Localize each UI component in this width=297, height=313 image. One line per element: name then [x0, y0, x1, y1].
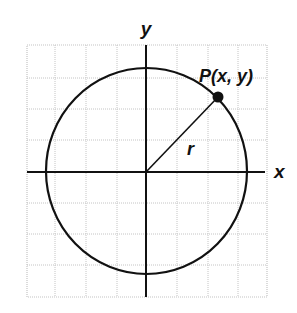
- diagram: y x P(x, y) r: [0, 0, 297, 313]
- x-axis-label: x: [273, 161, 286, 182]
- radius-label: r: [187, 139, 195, 159]
- point-p: [213, 92, 224, 103]
- point-p-label: P(x, y): [199, 66, 253, 86]
- coordinate-plane-svg: y x P(x, y) r: [0, 0, 297, 313]
- y-axis-label: y: [140, 18, 153, 39]
- radius-segment: [146, 97, 218, 172]
